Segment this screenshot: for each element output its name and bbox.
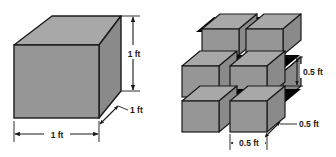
unit-cube-width-label: 1 ft [51,130,64,140]
cube-front-face [230,101,267,132]
geometry-figure: 1 ft 1 ft 1 ft [0,0,336,157]
unit-cube-front-face [14,45,99,118]
subdivided-cube-width-dimension: 0.5 ft [230,134,267,150]
cube-front-face [182,101,219,132]
subdivided-cube-solid [182,14,301,132]
subdivided-cube-width-label: 0.5 ft [239,138,259,148]
unit-cube-depth-label: 1 ft [130,105,143,115]
figure-canvas: 1 ft 1 ft 1 ft [0,0,336,157]
subdivided-cube-height-label: 0.5 ft [303,67,323,77]
subdivided-cube-depth-label: 0.5 ft [299,119,319,129]
unit-cube-height-label: 1 ft [128,49,141,59]
